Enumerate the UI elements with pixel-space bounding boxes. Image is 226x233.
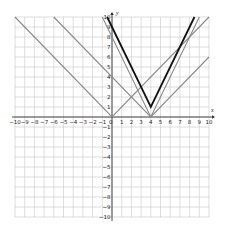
x-tick-label: −2 (89, 119, 97, 125)
x-tick-label: 9 (198, 119, 202, 125)
x-tick-label: −3 (79, 119, 88, 125)
y-tick-label: −3 (102, 144, 111, 150)
x-tick-label: 5 (159, 119, 163, 125)
x-tick-label: 7 (178, 119, 182, 125)
x-tick-label: −9 (21, 119, 30, 125)
x-tick-label: −4 (69, 119, 78, 125)
y-tick-label: −4 (102, 154, 111, 160)
y-tick-label: −8 (102, 194, 111, 200)
x-tick-label: 10 (206, 119, 213, 125)
coordinate-plane: −10−9−8−7−6−5−4−3−2−112345678910−10−9−8−… (0, 0, 226, 233)
y-tick-label: 6 (107, 54, 111, 60)
x-tick-label: 1 (120, 119, 124, 125)
y-tick-label: −5 (102, 164, 111, 170)
x-tick-label: 6 (168, 119, 172, 125)
y-tick-label: 2 (107, 94, 111, 100)
y-tick-label: −9 (102, 204, 111, 210)
axes (12, 12, 215, 221)
x-tick-label: −7 (40, 119, 49, 125)
x-tick-label: −10 (9, 119, 21, 125)
y-tick-label: 5 (107, 64, 111, 70)
y-tick-label: −6 (102, 174, 111, 180)
y-tick-label: −2 (102, 134, 110, 140)
x-tick-label: −5 (59, 119, 68, 125)
y-tick-label: −10 (99, 214, 111, 220)
y-tick-label: 3 (107, 84, 111, 90)
y-tick-label: 1 (107, 104, 111, 110)
x-tick-label: 8 (188, 119, 192, 125)
y-tick-label: −7 (102, 184, 111, 190)
x-tick-label: 4 (149, 119, 153, 125)
y-axis-label: y (115, 10, 119, 16)
y-axis-arrow-icon (110, 12, 114, 15)
y-tick-label: 7 (107, 44, 111, 50)
x-axis-label: x (210, 107, 214, 113)
x-tick-label: 3 (139, 119, 143, 125)
x-tick-label: 2 (130, 119, 134, 125)
origin-label: 0 (109, 119, 113, 125)
x-tick-label: −8 (30, 119, 39, 125)
x-tick-label: −6 (50, 119, 59, 125)
